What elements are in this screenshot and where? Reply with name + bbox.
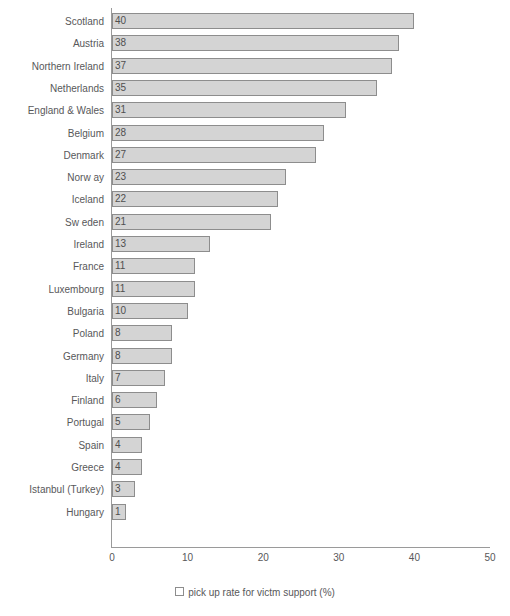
bar-value-label: 23	[115, 169, 126, 185]
bar-row: Iceland22	[112, 191, 490, 213]
bar-value-label: 38	[115, 35, 126, 51]
bar-value-label: 4	[115, 459, 121, 475]
bar-row: Italy7	[112, 370, 490, 392]
bar-value-label: 10	[115, 303, 126, 319]
legend-square-icon	[175, 587, 184, 596]
bar-row: Portugal5	[112, 414, 490, 436]
bar	[112, 13, 414, 29]
category-label: Finland	[71, 392, 104, 409]
bar-value-label: 8	[115, 325, 121, 341]
bar-value-label: 40	[115, 13, 126, 29]
category-label: Ireland	[73, 236, 104, 253]
bar-row: Spain4	[112, 437, 490, 459]
bar-value-label: 28	[115, 125, 126, 141]
category-label: Scotland	[65, 13, 104, 30]
bar-row: Norw ay23	[112, 169, 490, 191]
bar	[112, 191, 278, 207]
bar-value-label: 1	[115, 504, 121, 520]
bar-row: England & Wales31	[112, 102, 490, 124]
category-label: Luxembourg	[48, 281, 104, 298]
bar-row: Greece4	[112, 459, 490, 481]
bar	[112, 80, 377, 96]
bar-value-label: 22	[115, 191, 126, 207]
x-axis-tick-label: 20	[258, 552, 269, 563]
bar-value-label: 7	[115, 370, 121, 386]
category-label: France	[73, 258, 104, 275]
category-label: Spain	[78, 437, 104, 454]
x-axis-line	[111, 547, 490, 548]
plot-area: Scotland40Austria38Northern Ireland37Net…	[112, 8, 490, 547]
bar-value-label: 37	[115, 58, 126, 74]
x-axis-tick-label: 30	[333, 552, 344, 563]
bar-row: Austria38	[112, 35, 490, 57]
bar-row: Belgium28	[112, 125, 490, 147]
category-label: Northern Ireland	[32, 58, 104, 75]
category-label: Iceland	[72, 191, 104, 208]
category-label: Belgium	[68, 125, 104, 142]
category-label: England & Wales	[28, 102, 104, 119]
chart-legend: pick up rate for victm support (%)	[0, 586, 510, 598]
bar-row: Poland8	[112, 325, 490, 347]
bar	[112, 102, 346, 118]
category-label: Portugal	[67, 414, 104, 431]
category-label: Austria	[73, 35, 104, 52]
bar-row: Luxembourg11	[112, 281, 490, 303]
bar	[112, 169, 286, 185]
bar-value-label: 11	[115, 258, 125, 274]
category-label: Germany	[63, 348, 104, 365]
bar-value-label: 8	[115, 348, 121, 364]
bar-row: Germany8	[112, 348, 490, 370]
bar-value-label: 11	[115, 281, 125, 297]
category-label: Hungary	[66, 504, 104, 521]
bar	[112, 147, 316, 163]
x-axis-tick-label: 50	[484, 552, 495, 563]
category-label: Norw ay	[67, 169, 104, 186]
bar-row: Sw eden21	[112, 214, 490, 236]
bar	[112, 348, 172, 364]
bar-row: France11	[112, 258, 490, 280]
bar	[112, 236, 210, 252]
bar	[112, 58, 392, 74]
bar-value-label: 6	[115, 392, 121, 408]
category-label: Denmark	[63, 147, 104, 164]
bar-row: Netherlands35	[112, 80, 490, 102]
category-label: Istanbul (Turkey)	[29, 481, 104, 498]
category-label: Sw eden	[65, 214, 104, 231]
bar-value-label: 31	[115, 102, 126, 118]
bar-value-label: 5	[115, 414, 121, 430]
bar-row: Scotland40	[112, 13, 490, 35]
bar-row: Finland6	[112, 392, 490, 414]
x-axis-tick-label: 0	[109, 552, 115, 563]
bar-row: Ireland13	[112, 236, 490, 258]
bar-row: Istanbul (Turkey)3	[112, 481, 490, 503]
bar-value-label: 35	[115, 80, 126, 96]
bar	[112, 125, 324, 141]
bar-row: Denmark27	[112, 147, 490, 169]
bar	[112, 35, 399, 51]
bar-value-label: 3	[115, 481, 121, 497]
bar-row: Northern Ireland37	[112, 58, 490, 80]
bar-value-label: 27	[115, 147, 126, 163]
x-axis-tick-label: 40	[409, 552, 420, 563]
bar	[112, 325, 172, 341]
category-label: Italy	[86, 370, 104, 387]
bar-row: Hungary1	[112, 504, 490, 526]
category-label: Poland	[73, 325, 104, 342]
bar-chart: Scotland40Austria38Northern Ireland37Net…	[0, 0, 510, 616]
category-label: Bulgaria	[67, 303, 104, 320]
category-label: Netherlands	[50, 80, 104, 97]
bar-row: Bulgaria10	[112, 303, 490, 325]
category-label: Greece	[71, 459, 104, 476]
bar	[112, 214, 271, 230]
bar-value-label: 13	[115, 236, 126, 252]
bar-value-label: 21	[115, 214, 126, 230]
legend-label: pick up rate for victm support (%)	[188, 587, 335, 598]
bar-value-label: 4	[115, 437, 121, 453]
x-axis-tick-label: 10	[182, 552, 193, 563]
